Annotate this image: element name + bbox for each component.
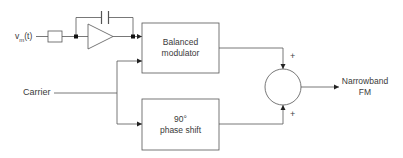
junction-dot-output: [131, 35, 135, 39]
summer-sign-top: +: [290, 51, 295, 61]
carrier-label: Carrier: [23, 87, 51, 98]
junction-dot-input: [74, 35, 78, 39]
input-filter-block: [48, 31, 62, 42]
feedback-wire: [76, 18, 101, 37]
summing-junction: [265, 69, 301, 105]
feedback-wire-right: [109, 18, 133, 37]
input-label-tail: (t): [24, 31, 32, 41]
output-label: Narrowband FM: [340, 76, 390, 98]
summer-sign-bottom: +: [290, 109, 295, 119]
phase-shift-label: 90° phase shift: [142, 114, 219, 136]
input-signal-label: vm(t): [15, 31, 32, 46]
modulator-label: Balanced modulator: [142, 37, 219, 59]
output-label-line1: Narrowband: [340, 76, 390, 87]
modulator-label-line1: Balanced: [142, 37, 219, 48]
output-label-line2: FM: [340, 87, 390, 98]
modulator-label-line2: modulator: [142, 48, 219, 59]
integrator-amplifier: [88, 24, 113, 49]
phase-shift-label-line2: phase shift: [142, 125, 219, 136]
modulator-to-summer-wire: [219, 48, 283, 69]
phase-shift-label-line1: 90°: [142, 114, 219, 125]
phase-to-summer-wire: [219, 105, 283, 124]
